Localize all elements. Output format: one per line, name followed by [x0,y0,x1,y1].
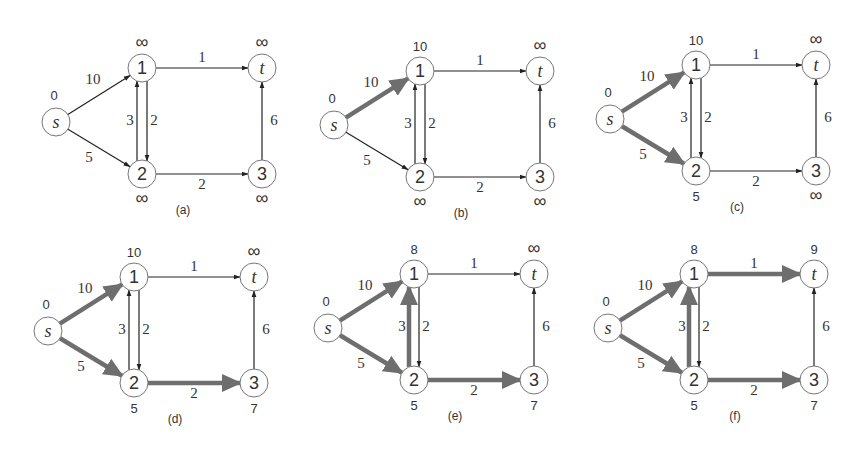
node-label: 1 [689,264,699,284]
distance-label-2: ∞ [414,191,427,211]
edge-weight-label: 3 [678,318,686,334]
distance-label-3: 7 [250,401,257,416]
edge-weight-label: 6 [822,318,830,334]
node-label: s [44,321,51,341]
panel-caption: (b) [454,206,469,220]
node-label: 3 [535,167,545,187]
edge-weight-label: 2 [150,112,158,128]
edge-s-2-highlighted [340,335,402,373]
node-label: 1 [409,264,419,284]
edge-weight-label: 2 [198,176,206,192]
distance-label-3: ∞ [534,191,547,211]
node-label: 3 [809,370,819,390]
edge-weight-label: 5 [637,355,645,371]
node-label: s [52,112,59,132]
edge-weight-label: 2 [750,382,758,398]
node-label: s [330,115,337,135]
node-label: s [604,318,611,338]
panel-e: 10512326s018t∞2537(e) [314,238,550,423]
distance-label-1: 10 [413,39,427,54]
edge-weight-label: 10 [86,71,101,87]
distance-label-1: 10 [689,33,703,48]
panel-c: 10512326s0110t∞253∞(c) [596,29,832,214]
edge-weight-label: 6 [824,109,832,125]
node-label: 2 [691,161,701,181]
edge-weight-label: 1 [470,255,478,271]
edge-weight-label: 6 [262,321,270,337]
edge-s-2 [68,129,130,167]
node-label: 1 [129,267,139,287]
distance-label-t: ∞ [248,241,261,261]
distance-label-3: ∞ [256,188,269,208]
distance-label-3: ∞ [810,185,823,205]
edge-weight-label: 2 [476,179,484,195]
edge-s-2-highlighted [620,335,682,373]
node-label: 2 [129,373,139,393]
distance-label-s: 0 [42,297,49,312]
edge-weight-label: 1 [476,52,484,68]
panel-a: 10512326s01∞t∞2∞3∞(a) [42,32,278,217]
node-label: 3 [811,161,821,181]
node-label: 2 [137,164,147,184]
panel-b: 10512326s0110t∞2∞3∞(b) [320,35,556,220]
edge-weight-label: 5 [85,149,93,165]
distance-label-t: ∞ [810,29,823,49]
edge-weight-label: 2 [422,318,430,334]
panel-d: 10512326s0110t∞2537(d) [34,241,270,426]
distance-label-2: 5 [410,398,417,413]
edge-weight-label: 3 [398,318,406,334]
edge-weight-label: 1 [190,258,198,274]
node-label: 1 [137,58,147,78]
distance-label-s: 0 [322,294,329,309]
node-label: 1 [415,61,425,81]
edge-weight-label: 2 [428,115,436,131]
edge-s-2-highlighted [622,126,684,164]
edge-weight-label: 10 [78,280,93,296]
edge-weight-label: 10 [638,277,653,293]
figure-canvas: 10512326s01∞t∞2∞3∞(a)10512326s0110t∞2∞3∞… [0,0,862,470]
distance-label-t: ∞ [528,238,541,258]
node-label: s [606,109,613,129]
node-label: 2 [409,370,419,390]
edge-weight-label: 2 [704,109,712,125]
distance-label-2: ∞ [136,188,149,208]
edge-weight-label: 5 [363,152,371,168]
edge-weight-label: 3 [680,109,688,125]
panel-f: 10512326s018t92537(f) [594,242,830,423]
node-label: 2 [689,370,699,390]
node-label: s [324,318,331,338]
distance-label-2: 5 [690,398,697,413]
panel-caption: (d) [168,412,183,426]
edge-weight-label: 6 [548,115,556,131]
edge-weight-label: 2 [190,385,198,401]
edge-weight-label: 5 [639,146,647,162]
edge-weight-label: 1 [198,49,206,65]
node-label: 1 [691,55,701,75]
node-label: 3 [529,370,539,390]
edge-weight-label: 6 [542,318,550,334]
distance-label-1: 8 [690,242,697,257]
edge-weight-label: 10 [358,277,373,293]
distance-label-3: 7 [810,398,817,413]
distance-label-1: 10 [127,245,141,260]
distance-label-3: 7 [530,398,537,413]
edge-weight-label: 5 [77,358,85,374]
distance-label-2: 5 [692,189,699,204]
edge-weight-label: 6 [270,112,278,128]
distance-label-1: ∞ [136,32,149,52]
distance-label-s: 0 [50,88,57,103]
edge-s-2-highlighted [60,338,122,376]
panel-caption: (a) [176,203,191,217]
edge-weight-label: 3 [126,112,134,128]
distance-label-t: ∞ [534,35,547,55]
distance-label-s: 0 [328,91,335,106]
edge-weight-label: 3 [404,115,412,131]
distance-label-s: 0 [602,294,609,309]
edge-weight-label: 3 [118,321,126,337]
dijkstra-figure: 10512326s01∞t∞2∞3∞(a)10512326s0110t∞2∞3∞… [0,0,862,470]
distance-label-s: 0 [604,85,611,100]
panel-caption: (c) [730,200,744,214]
distance-label-1: 8 [410,242,417,257]
distance-label-t: 9 [810,242,817,257]
distance-label-2: 5 [130,401,137,416]
